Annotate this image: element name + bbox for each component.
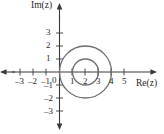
y-tick-label-2: 2 — [46, 41, 51, 50]
x-tick-label-3: 3 — [96, 77, 101, 86]
x-tick-label--3: –3 — [15, 77, 24, 86]
y-tick-label-1: 1 — [46, 54, 51, 63]
y-axis-title: Im(z) — [31, 1, 52, 11]
y-tick-label--2: –2 — [44, 94, 53, 103]
x-axis-title: Re(z) — [136, 79, 157, 89]
y-tick-label-3: 3 — [46, 28, 51, 37]
x-tick-label-2: 2 — [83, 77, 88, 86]
complex-plane-figure: Im(z) Re(z) 0 –3 –2 –1 1 2 3 4 5 3 2 1 –… — [0, 0, 164, 134]
x-tick-label-1: 1 — [70, 77, 75, 86]
x-tick-label--2: –2 — [28, 77, 37, 86]
y-tick-label--3: –3 — [44, 107, 53, 116]
x-tick-label-5: 5 — [122, 77, 127, 86]
plot-canvas — [0, 0, 164, 134]
x-axis — [6, 69, 151, 76]
y-tick-label--1: –1 — [44, 81, 53, 90]
x-tick-label-4: 4 — [109, 77, 114, 86]
